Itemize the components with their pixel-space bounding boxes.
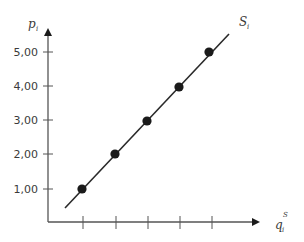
data-point [142, 116, 151, 125]
x-axis-label-sub: i [282, 226, 284, 234]
y-tick-label: 3,00 [14, 114, 39, 127]
y-tick-label: 2,00 [14, 148, 39, 161]
data-point [174, 82, 183, 91]
curve-label-sub: i [247, 23, 249, 31]
y-tick-label: 4,00 [14, 80, 39, 93]
y-tick-labels: 5,00 4,00 3,00 2,00 1,00 [14, 46, 39, 196]
curve-label: S [239, 15, 247, 29]
data-point [204, 47, 213, 56]
y-tick-label: 1,00 [14, 183, 39, 196]
y-axis-label: p [28, 17, 36, 31]
data-point [77, 184, 86, 193]
y-axis-label-sub: i [36, 25, 38, 33]
x-axis-label-sup: S [283, 211, 288, 219]
data-points [77, 47, 213, 193]
supply-chart: 5,00 4,00 3,00 2,00 1,00 p i q i S S i [0, 0, 304, 242]
y-tick-label: 5,00 [14, 46, 39, 59]
data-point [110, 149, 119, 158]
